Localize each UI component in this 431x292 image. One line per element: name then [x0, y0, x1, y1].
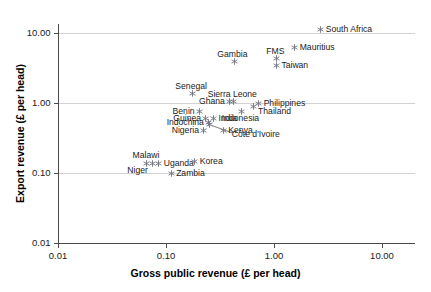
data-point-label: India [218, 113, 237, 123]
data-point-label: Korea [200, 156, 223, 166]
data-point-marker [317, 26, 324, 33]
y-tick-3 [54, 33, 58, 34]
data-point-marker [168, 170, 175, 177]
y-tick-0 [54, 243, 58, 244]
y-tick-1 [54, 173, 58, 174]
data-point-marker [273, 62, 280, 69]
x-tick-2 [274, 244, 275, 248]
data-point-label: Sierra Leone [0, 89, 431, 99]
data-point-label: Gambia [0, 49, 431, 59]
x-tick-label-2: 1.00 [244, 250, 304, 261]
data-point-marker [230, 98, 237, 105]
data-point-marker [200, 127, 207, 134]
data-point-marker [220, 127, 227, 134]
x-tick-label-3: 10.00 [352, 250, 412, 261]
data-point-marker [155, 160, 162, 167]
x-tick-3 [382, 244, 383, 248]
x-tick-0 [58, 244, 59, 248]
x-axis-line [58, 243, 416, 244]
data-point-label: Malawi [0, 150, 292, 160]
data-point-label: Uganda [164, 158, 194, 168]
data-point-marker [250, 103, 257, 110]
data-point-label: Kenya [228, 125, 252, 135]
data-point-label: Taiwan [281, 60, 308, 70]
y-tick-2 [54, 103, 58, 104]
data-point-label: Zambia [176, 168, 205, 178]
data-point-label: Nigeria [172, 125, 199, 135]
data-point-label: South Africa [326, 24, 372, 34]
x-tick-1 [166, 244, 167, 248]
gridline-0.1 [58, 173, 416, 174]
x-axis-title: Gross public revenue (£ per head) [0, 267, 431, 279]
x-tick-label-0: 0.01 [28, 250, 88, 261]
data-point-marker [231, 58, 238, 65]
data-point-label: Niger [127, 165, 148, 175]
data-point-marker [191, 158, 198, 165]
x-tick-label-1: 0.10 [136, 250, 196, 261]
scatter-chart: 0.010.101.0010.000.010.101.0010.00Gross … [0, 0, 431, 292]
